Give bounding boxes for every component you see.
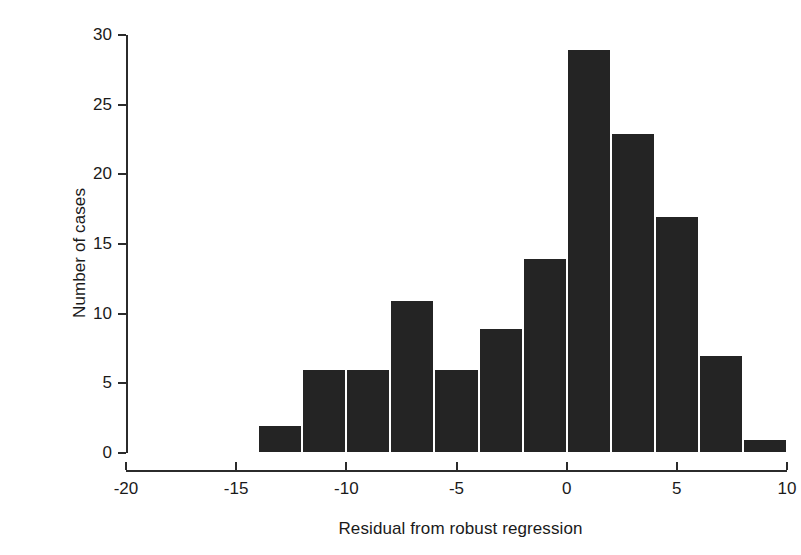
- x-tick-mark: [345, 462, 347, 470]
- x-tick-label: 10: [757, 480, 801, 497]
- x-axis-title: Residual from robust regression: [0, 519, 801, 539]
- x-axis-line: [126, 470, 787, 472]
- x-tick-mark: [235, 462, 237, 470]
- x-tick-label: -10: [316, 480, 376, 497]
- x-tick-label: 0: [537, 480, 597, 497]
- x-tick-mark: [676, 462, 678, 470]
- x-axis: -20-15-10-50510 Residual from robust reg…: [0, 0, 801, 555]
- x-tick-label: -15: [206, 480, 266, 497]
- x-tick-mark: [786, 462, 788, 470]
- x-tick-label: -20: [96, 480, 156, 497]
- x-tick-label: 5: [647, 480, 707, 497]
- x-tick-mark: [456, 462, 458, 470]
- x-tick-mark: [566, 462, 568, 470]
- histogram-figure: Number of cases 051015202530 -20-15-10-5…: [0, 0, 801, 555]
- x-tick-label: -5: [427, 480, 487, 497]
- x-tick-mark: [125, 462, 127, 470]
